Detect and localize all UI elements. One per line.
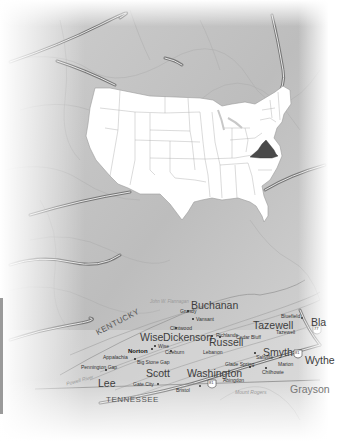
label-tazewell-town: Tazewell: [276, 330, 295, 335]
label-vansant: Vansant: [196, 317, 214, 322]
label-lee: Lee: [98, 378, 116, 389]
label-buchanan: Buchanan: [191, 300, 238, 311]
label-coeburn: Coeburn: [165, 350, 184, 355]
label-appalachia: Appalachia: [103, 355, 128, 360]
label-grundy: Grundy: [180, 309, 196, 314]
label-gate-city: Gate City: [133, 382, 154, 387]
label-mount-rogers: Mount Rogers: [235, 390, 266, 395]
label-bristol: Bristol: [176, 388, 190, 393]
label-pennington-gap: Pennington Gap: [81, 365, 117, 370]
label-tennessee: TENNESSEE: [106, 396, 159, 404]
label-richlands: Richlands: [216, 333, 238, 338]
label-chilhowie: Chilhowie: [262, 370, 284, 375]
left-edge-bar: [0, 298, 3, 414]
label-john-flannagan: John W. Flannagan: [150, 300, 189, 305]
shield-label-77: 77: [314, 327, 318, 331]
label-bluefield: Bluefield: [281, 314, 300, 319]
shield-label-81b: 81: [295, 351, 299, 355]
label-norton: Norton: [128, 348, 148, 354]
label-grayson: Grayson: [290, 384, 330, 395]
shield-label-81: 81: [209, 381, 213, 385]
label-scott: Scott: [146, 368, 170, 379]
label-lebanon: Lebanon: [203, 350, 222, 355]
label-wise-county: Wise: [140, 332, 163, 343]
label-cedar-bluff: Cedar Bluff: [236, 335, 261, 340]
label-saltville: Saltville: [256, 355, 273, 360]
label-marion: Marion: [278, 362, 293, 367]
label-big-stone-gap: Big Stone Gap: [137, 360, 170, 365]
label-abingdon: Abingdon: [223, 378, 244, 383]
label-wythe: Wythe: [305, 355, 335, 366]
label-dickenson: Dickenson: [163, 332, 212, 343]
